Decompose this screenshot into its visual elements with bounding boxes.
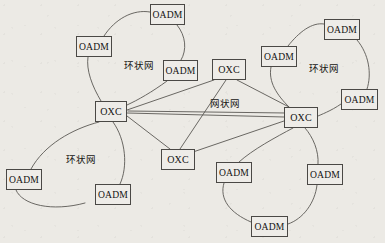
ring-br-seg-oadmc-oadmb bbox=[288, 185, 317, 224]
zone-label-ring-right: 环状网 bbox=[309, 64, 339, 74]
node-oadm-tl-b[interactable]: OADM bbox=[76, 36, 112, 57]
ring-top-left-edges bbox=[88, 11, 185, 105]
mesh-edge-left-right-2 bbox=[128, 111, 286, 113]
mesh-edge-left-right bbox=[127, 113, 284, 117]
node-oadm-tl-a[interactable]: OADM bbox=[150, 4, 185, 25]
node-oxc-right[interactable]: OXC bbox=[284, 107, 318, 128]
node-oxc-bottom[interactable]: OXC bbox=[161, 149, 195, 170]
node-oadm-br-c[interactable]: OADM bbox=[251, 216, 288, 237]
ring-tl-seg-oadmc-oxc bbox=[127, 81, 167, 105]
mesh-edge-left-top bbox=[127, 80, 214, 110]
ring-r-seg-oadmc-oxc bbox=[318, 104, 341, 116]
node-oadm-br-b[interactable]: OADM bbox=[307, 164, 343, 185]
zone-label-mesh-center: 网状网 bbox=[210, 99, 240, 109]
node-oadm-r-a[interactable]: OADM bbox=[324, 19, 360, 40]
node-oadm-bl-b[interactable]: OADM bbox=[95, 184, 131, 205]
zone-label-ring-bottom-left: 环状网 bbox=[66, 155, 96, 165]
node-oadm-r-c[interactable]: OADM bbox=[341, 89, 378, 110]
zone-label-ring-top-left: 环状网 bbox=[124, 61, 154, 71]
ring-br-seg-oxc-oadma bbox=[239, 128, 293, 162]
ring-r-seg-oxc-oadmb bbox=[270, 67, 289, 107]
ring-br-seg-oadma-oadmc bbox=[223, 183, 251, 222]
node-oxc-top[interactable]: OXC bbox=[212, 59, 246, 80]
node-oadm-r-b[interactable]: OADM bbox=[261, 46, 297, 67]
mesh-edge-right-bottom bbox=[193, 121, 284, 152]
mesh-edge-top-bottom bbox=[180, 80, 226, 149]
node-oadm-br-a[interactable]: OADM bbox=[216, 162, 252, 183]
ring-r-seg-oadmb-oadma bbox=[288, 24, 324, 46]
ring-tl-seg-oadma-oadmc bbox=[177, 25, 185, 60]
mesh-edge-top-right bbox=[237, 80, 289, 107]
node-oadm-tl-c[interactable]: OADM bbox=[163, 60, 198, 81]
ring-bl-seg-oadmb-oxc bbox=[113, 122, 125, 184]
ring-bl-seg-oadma-oadmb bbox=[16, 190, 85, 207]
ring-tl-seg-oadmb-oadma bbox=[104, 11, 150, 36]
ring-br-seg-oadmb-oxc bbox=[305, 128, 318, 164]
ring-r-seg-oadma-oadmc bbox=[357, 40, 369, 89]
mesh-edge-left-bottom bbox=[127, 116, 170, 149]
ring-tl-seg-oxc-oadmb bbox=[88, 57, 101, 101]
node-oxc-left[interactable]: OXC bbox=[95, 101, 127, 122]
network-topology-figure: OXCOXCOXCOXCOADMOADMOADMOADMOADMOADMOADM… bbox=[0, 0, 385, 243]
mesh-edges bbox=[127, 80, 289, 152]
node-oadm-bl-a[interactable]: OADM bbox=[6, 169, 42, 190]
